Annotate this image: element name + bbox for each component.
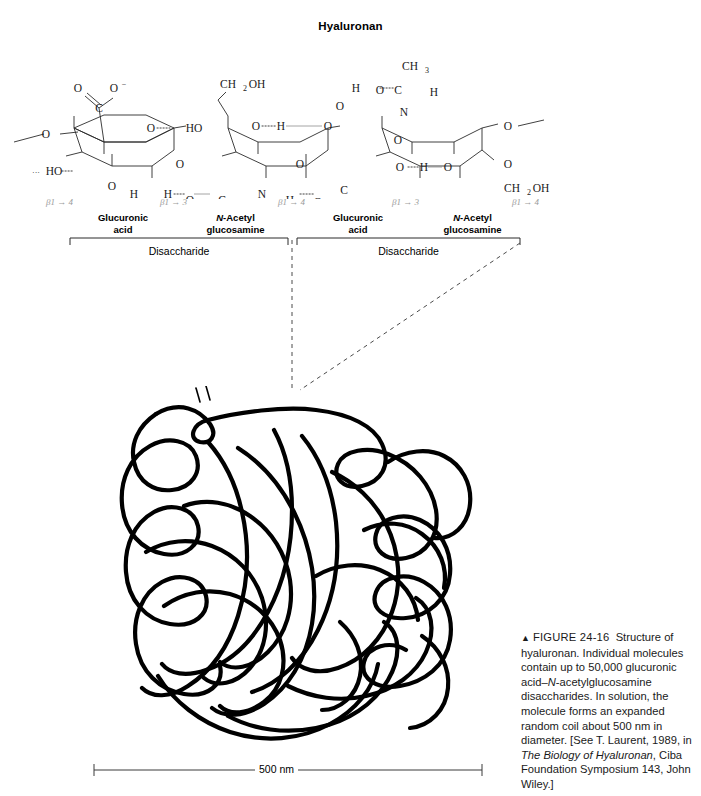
svg-text:H: H <box>430 86 438 98</box>
svg-text:OH: OH <box>533 182 550 194</box>
hyaluronan-structure-diagram: O O C O − HO ··· O HO O H CH 2 OH O O H … <box>0 34 580 199</box>
coil-attachment-ticks <box>196 386 210 402</box>
hydrogen-bonds <box>62 88 442 194</box>
svg-text:HO: HO <box>46 165 63 177</box>
svg-text:2: 2 <box>527 188 531 197</box>
svg-text:···: ··· <box>32 168 40 177</box>
svg-text:CH: CH <box>504 182 520 194</box>
sugar-line-1: N-Acetyl <box>183 212 288 224</box>
svg-text:O: O <box>504 158 512 170</box>
svg-text:O: O <box>110 82 118 94</box>
scale-bar-label: 500 nm <box>255 763 298 775</box>
svg-text:O: O <box>314 196 322 199</box>
svg-text:H: H <box>277 120 285 132</box>
svg-text:OH: OH <box>249 78 266 90</box>
svg-text:H: H <box>352 82 360 94</box>
structure-title: Hyaluronan <box>0 20 701 32</box>
svg-text:C: C <box>340 184 348 196</box>
svg-text:O: O <box>376 84 384 96</box>
svg-text:O: O <box>252 120 260 132</box>
linkage-label-4: β1 → 3 <box>392 197 419 207</box>
random-coil-drawing <box>88 386 488 766</box>
sugar-line-1-rest: -Acetyl <box>223 212 255 223</box>
svg-text:O: O <box>108 180 116 192</box>
leader-line-diagonal <box>300 243 520 390</box>
sugar-line-1: Glucuronic <box>78 212 168 224</box>
caption-triangle-icon: ▲ <box>521 633 530 643</box>
figure-caption: ▲ FIGURE 24-16 Structure of hyaluronan. … <box>521 630 693 792</box>
coil-strands <box>122 407 471 738</box>
svg-text:O: O <box>444 161 452 173</box>
svg-text:O: O <box>296 158 304 170</box>
svg-text:3: 3 <box>425 66 429 75</box>
svg-text:HO: HO <box>186 122 203 134</box>
sugar-line-1: N-Acetyl <box>420 212 525 224</box>
caption-italic-n: N <box>548 676 556 688</box>
linkage-label-5: β1 → 4 <box>512 197 539 207</box>
figure-24-16: Hyaluronan <box>0 0 701 796</box>
structure-bonds <box>14 92 544 178</box>
svg-text:O: O <box>396 161 404 173</box>
caption-figure-number: FIGURE 24-16 <box>533 631 609 643</box>
svg-text:O: O <box>324 120 332 132</box>
svg-text:2: 2 <box>243 84 247 93</box>
svg-text:N: N <box>258 188 267 199</box>
sugar-line-1: Glucuronic <box>313 212 403 224</box>
linkage-label-2: β1 → 3 <box>160 197 187 207</box>
linkage-label-1: β1 → 4 <box>46 197 73 207</box>
svg-text:C: C <box>394 84 402 96</box>
linkage-label-3: β1 → 4 <box>278 197 305 207</box>
svg-text:N: N <box>400 106 409 118</box>
svg-text:O: O <box>504 120 512 132</box>
svg-text:C: C <box>218 194 226 199</box>
svg-text:O: O <box>74 82 82 94</box>
svg-text:H: H <box>420 161 428 173</box>
svg-text:O: O <box>394 134 402 146</box>
svg-text:C: C <box>95 102 103 114</box>
sugar-line-1-rest: -Acetyl <box>460 212 492 223</box>
svg-text:O: O <box>186 194 194 199</box>
svg-text:O: O <box>147 122 155 134</box>
svg-text:CH: CH <box>220 78 236 90</box>
svg-text:−: − <box>122 80 127 89</box>
svg-text:CH: CH <box>402 60 418 72</box>
svg-text:H: H <box>130 188 138 199</box>
svg-text:O: O <box>42 128 50 140</box>
svg-text:O: O <box>336 100 344 112</box>
svg-text:O: O <box>176 158 184 170</box>
atom-labels: O O C O − HO ··· O HO O H CH 2 OH O O H … <box>32 60 549 199</box>
caption-book-title: The Biology of Hyaluronan <box>521 749 653 761</box>
